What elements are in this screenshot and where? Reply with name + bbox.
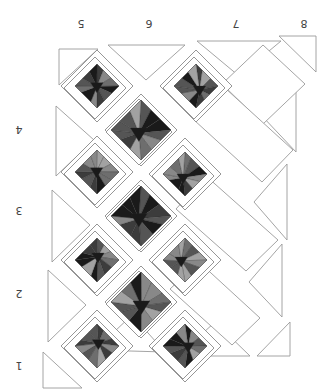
row-label: 4 <box>13 123 25 135</box>
row-label: 1 <box>13 359 25 371</box>
row-label: 2 <box>13 287 25 299</box>
setting-triangle <box>257 322 290 356</box>
column-label: 6 <box>143 17 155 29</box>
column-label: 5 <box>75 17 87 29</box>
column-label: 7 <box>230 17 242 29</box>
column-label: 8 <box>298 17 310 29</box>
quilt-diagram: 56784321 <box>0 0 332 389</box>
row-label: 3 <box>13 204 25 216</box>
quilt-layout-svg <box>0 0 332 389</box>
